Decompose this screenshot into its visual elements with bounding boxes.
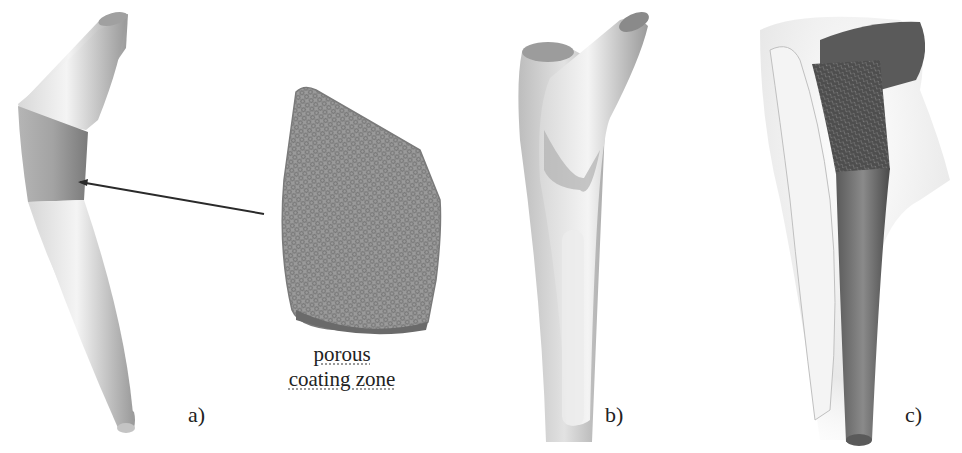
porous-coating-zone-graphic [282, 87, 440, 334]
panel-label-b: b) [605, 402, 623, 428]
callout-arrow [80, 182, 264, 214]
caption-line-2: coating zone [262, 367, 422, 392]
panel-a-stem [18, 9, 135, 433]
figure: porous coating zone a) b) c) [0, 0, 962, 453]
figure-graphics [0, 0, 962, 453]
panel-c-rendered-implant [760, 17, 950, 446]
panel-b-implant-in-bone [518, 8, 651, 442]
porous-coating-caption: porous coating zone [262, 342, 422, 392]
panel-label-c: c) [905, 402, 922, 428]
panel-label-a: a) [188, 402, 205, 428]
caption-line-1: porous [262, 342, 422, 367]
